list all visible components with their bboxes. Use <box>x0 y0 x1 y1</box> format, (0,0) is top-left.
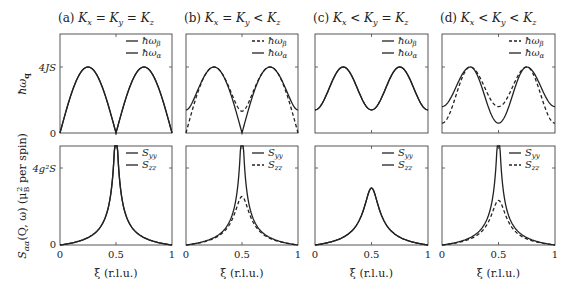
x-axis-label: ξ (r.l.u.) <box>220 267 263 280</box>
x-tick-label: 0.5 <box>234 249 250 260</box>
dashed-curve <box>442 200 555 245</box>
legend-label-top: ħωα <box>268 47 288 60</box>
y-tick-4g2S: 4g²S <box>31 163 56 174</box>
panel-title-c: (c) Kx < Ky = Kz <box>313 11 409 27</box>
legend-label-bottom: Szz <box>142 159 157 172</box>
x-tick-label: 0 <box>57 249 63 260</box>
solid-curve <box>315 188 428 245</box>
legend-label-top: ħωα <box>525 47 545 60</box>
solid-curve <box>186 146 298 245</box>
bottom-plot-frame-a <box>60 146 172 245</box>
x-tick-label: 0 <box>312 249 318 260</box>
x-tick-label: 1 <box>169 249 175 260</box>
legend-label-top: ħωα <box>142 47 162 60</box>
panel-title-b: (b) Kx = Ky < Kz <box>184 11 281 27</box>
x-tick-label: 1 <box>552 249 558 260</box>
solid-curve <box>315 67 428 110</box>
solid-curve <box>442 67 555 123</box>
solid-curve <box>315 188 428 245</box>
solid-curve <box>60 67 172 133</box>
x-tick-label: 1 <box>425 249 431 260</box>
x-tick-label: 0.5 <box>364 249 380 260</box>
y-tick-0-top: 0 <box>50 128 56 139</box>
solid-curve <box>186 67 298 133</box>
legend-label-bottom: Szz <box>268 159 283 172</box>
x-axis-label: ξ (r.l.u.) <box>477 267 520 280</box>
panel-title-a: (a) Kx = Ky = Kz <box>58 11 155 27</box>
solid-curve <box>315 67 428 110</box>
solid-curve <box>60 146 172 245</box>
legend-label-bottom: Szz <box>525 159 540 172</box>
bottom-plot-frame-d <box>442 146 555 245</box>
dashed-curve <box>186 196 298 245</box>
y-tick-4JS: 4JS <box>38 62 56 73</box>
panel-title-d: (d) Kx < Ky < Kz <box>440 11 537 27</box>
dashed-curve <box>186 67 298 133</box>
x-axis-label: ξ (r.l.u.) <box>94 267 137 280</box>
bottom-plot-frame-b <box>186 146 298 245</box>
solid-curve <box>60 67 172 133</box>
x-tick-label: 0.5 <box>108 249 124 260</box>
bottom-y-axis-label: Sαα(Q, ω) (μB2 per spin) <box>15 133 31 259</box>
x-tick-label: 0 <box>183 249 189 260</box>
figure-canvas: (a) Kx = Ky = KzħωβħωαSyySzz00.51ξ (r.l.… <box>0 0 576 295</box>
y-tick-0-bottom: 0 <box>50 239 56 250</box>
x-tick-label: 1 <box>295 249 301 260</box>
dashed-curve <box>442 67 555 123</box>
bottom-plot-frame-c <box>315 146 428 245</box>
legend-label-top: ħωα <box>398 47 418 60</box>
x-tick-label: 0 <box>439 249 445 260</box>
solid-curve <box>60 146 172 245</box>
x-tick-label: 0.5 <box>491 249 507 260</box>
solid-curve <box>442 146 555 245</box>
top-y-axis-label: ħωq <box>16 73 31 95</box>
x-axis-label: ξ (r.l.u.) <box>350 267 393 280</box>
legend-label-bottom: Szz <box>398 159 413 172</box>
